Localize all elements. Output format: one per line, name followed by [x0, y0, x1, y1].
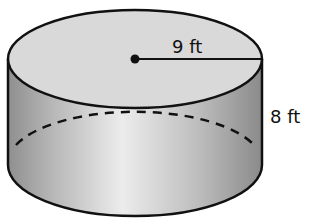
height-label: 8 ft [270, 106, 300, 127]
center-point [131, 55, 140, 64]
radius-label: 9 ft [172, 36, 202, 57]
cylinder-diagram: 9 ft 8 ft [0, 0, 312, 222]
